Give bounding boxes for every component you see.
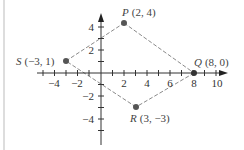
x-tick-label: 10 xyxy=(212,77,224,89)
y-tick-label: −2 xyxy=(82,90,94,102)
edge-pq xyxy=(124,23,194,73)
x-axis xyxy=(37,70,228,76)
point-s xyxy=(63,58,69,64)
x-tick-label: 2 xyxy=(121,77,127,89)
point-p xyxy=(121,20,127,26)
point-q xyxy=(191,70,197,76)
point-label-q: Q(8, 0) xyxy=(194,56,229,69)
coordinate-plane: −4 −2 2 4 6 8 10 4 2 −2 −4 P(2, 4) Q(8, … xyxy=(0,0,244,150)
point-label-p: P(2, 4) xyxy=(121,6,156,19)
edge-sp xyxy=(66,23,124,61)
x-tick-label: 6 xyxy=(167,77,173,89)
point-r xyxy=(133,104,139,110)
y-tick-label: −4 xyxy=(82,113,94,125)
y-axis-arrow-icon xyxy=(98,13,104,22)
x-tick-label: 8 xyxy=(191,77,197,89)
x-tick-label: 4 xyxy=(144,77,150,89)
point-label-r: R(3, −3) xyxy=(129,112,170,125)
y-tick-label: 2 xyxy=(89,44,95,56)
x-axis-arrow-icon xyxy=(219,70,228,76)
x-tick-label: −4 xyxy=(48,77,60,89)
x-tick-label: −2 xyxy=(71,77,83,89)
y-tick-label: 4 xyxy=(89,21,95,33)
point-label-s: S(−3, 1) xyxy=(16,55,55,68)
y-axis xyxy=(98,13,104,145)
